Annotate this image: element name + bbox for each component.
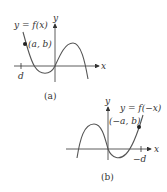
point-label-a: (a, b) <box>28 39 52 49</box>
y-axis-label-b: y <box>104 96 111 106</box>
x-axis-label-b: x <box>154 144 159 154</box>
figure-b: y = f(−x) (−a, b) y x −d (b) <box>66 96 162 182</box>
point-label-b: (−a, b) <box>109 116 141 126</box>
caption-b: (b) <box>101 172 114 182</box>
caption-a: (a) <box>44 91 56 101</box>
y-axis-label-a: y <box>52 13 59 23</box>
x-axis-label-a: x <box>101 61 106 71</box>
function-label-b: y = f(−x) <box>119 103 162 113</box>
tick-label-d: d <box>18 71 24 81</box>
function-label-a: y = f(x) <box>13 20 48 30</box>
figure-a: y = f(x) (a, b) y x d (a) <box>13 13 106 101</box>
point-a-b <box>23 42 27 46</box>
tick-label-minus-d: −d <box>133 154 147 164</box>
reflection-diagram: y = f(x) (a, b) y x d (a) y = f(−x) (−a,… <box>0 0 167 192</box>
